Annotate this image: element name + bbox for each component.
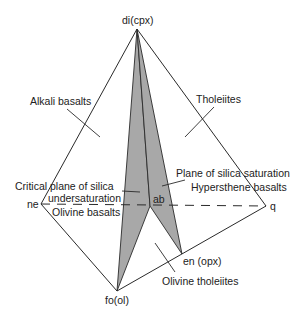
basalt-tetrahedron-diagram: di(cpx) ne q fo(ol) en (opx) ab Alkali b… xyxy=(0,0,305,322)
label-olivine-basalts: Olivine basalts xyxy=(52,206,120,218)
leader-alkali-basalts xyxy=(67,109,100,137)
vertex-label-q: q xyxy=(270,200,276,212)
vertex-label-en: en (opx) xyxy=(183,255,222,267)
leader-tholeiites xyxy=(185,107,214,137)
label-plane-saturation: Plane of silica saturation xyxy=(176,167,290,179)
edge-di-ne xyxy=(41,29,137,204)
label-alkali-basalts: Alkali basalts xyxy=(30,95,91,107)
label-hypersthene-basalts: Hypersthene basalts xyxy=(191,181,287,193)
vertex-label-ab: ab xyxy=(153,193,165,205)
label-critical-plane-2: undersaturation xyxy=(48,192,121,204)
label-tholeiites: Tholeiites xyxy=(196,93,241,105)
vertex-label-fo: fo(ol) xyxy=(105,294,129,306)
label-olivine-tholeiites: Olivine tholeiites xyxy=(162,275,238,287)
vertex-label-di: di(cpx) xyxy=(122,14,154,26)
label-critical-plane-1: Critical plane of silica xyxy=(15,180,114,192)
vertex-label-ne: ne xyxy=(27,198,39,210)
